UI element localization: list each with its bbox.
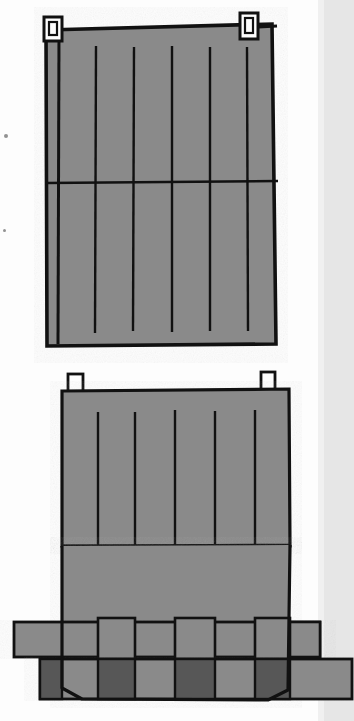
upper-panel-hanging-loop-right (240, 13, 258, 39)
scan-edge-gradient (318, 0, 324, 721)
scan-speck (3, 229, 6, 232)
scan-edge-band (322, 0, 354, 721)
drawing-sheet (0, 0, 354, 721)
figure-upper (44, 13, 278, 346)
shadow-segment-2 (98, 659, 135, 699)
strap-upper-right-tail (290, 622, 320, 657)
scan-speck (4, 134, 8, 138)
shadow-segment-3 (175, 659, 215, 699)
upper-panel-top-edge-extension (258, 26, 277, 27)
shadow-segment-1 (40, 659, 62, 699)
upper-panel-body (46, 24, 276, 346)
upper-panel-hanging-loop-left (44, 17, 62, 41)
drawing-canvas (0, 0, 354, 721)
